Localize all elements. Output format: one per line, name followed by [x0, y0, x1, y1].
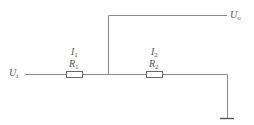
resistor-r1-label: R1: [69, 59, 79, 71]
circuit-wires: [0, 0, 254, 125]
circuit-diagram: Ui Uo I1 R1 I2 R2: [0, 0, 254, 125]
resistor-r2-icon: [147, 72, 163, 78]
output-voltage-label: Uo: [230, 10, 241, 22]
resistor-r2-label: R2: [149, 59, 159, 71]
resistor-r1-icon: [67, 72, 83, 78]
input-voltage-label: Ui: [9, 68, 18, 80]
